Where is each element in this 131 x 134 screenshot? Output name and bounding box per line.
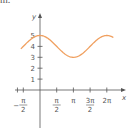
x-tick-label-numerator: π [55, 97, 60, 105]
y-axis-label: y [31, 13, 37, 21]
y-ticks: 12345 [31, 32, 43, 84]
x-tick-label-denominator: 2 [54, 106, 58, 114]
x-tick-label: π [71, 97, 76, 105]
x-tick-label: 2π [102, 97, 111, 105]
x-axis-arrow-icon [121, 88, 126, 92]
y-axis-arrow-icon [38, 13, 42, 18]
x-tick-label-numerator: π [21, 97, 26, 105]
x-ticks: π2−π2π3π22π [13, 88, 112, 115]
x-tick-label-denominator: 2 [21, 106, 25, 114]
y-tick-label: 2 [31, 65, 35, 73]
svg-text:−: − [13, 102, 19, 110]
y-tick-label: 1 [31, 76, 35, 84]
y-tick-label: 3 [31, 54, 35, 62]
x-tick-label-numerator: 3π [86, 97, 95, 105]
x-axis-label: x [121, 94, 127, 102]
x-tick-label-denominator: 2 [88, 106, 92, 114]
function-graph: x y π2−π2π3π22π 12345 [0, 0, 131, 134]
y-tick-label: 4 [31, 43, 36, 51]
